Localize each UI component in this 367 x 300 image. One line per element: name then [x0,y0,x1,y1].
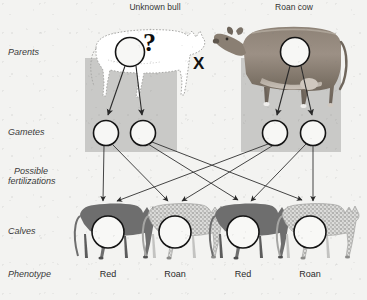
genetics-cross-diagram: Unknown bull Roan cow Parents Gametes Po… [0,0,367,300]
roan-cow-photo [213,27,347,108]
gamete-circle-1 [94,121,119,146]
cross-symbol: X [193,55,204,74]
calf-circle-3 [227,216,259,248]
gamete-circle-4 [301,121,326,146]
parent-circle-cow [281,38,310,67]
calf-circle-4 [294,216,326,248]
calf-circle-1 [92,216,124,248]
parent-circle-bull [116,38,145,67]
gamete-circle-3 [263,121,288,146]
unknown-genotype-question-mark: ? [143,29,156,58]
fertilization-arrows [103,142,313,201]
calf-circle-2 [159,216,191,248]
diagram-graphics [0,0,367,300]
gamete-circle-2 [131,121,156,146]
